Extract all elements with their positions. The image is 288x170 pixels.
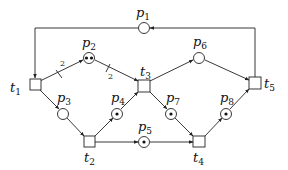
token	[224, 112, 227, 115]
transition-t5: t5	[249, 76, 275, 93]
arc-t3-p7	[150, 92, 167, 109]
transition-t3: t3	[138, 64, 151, 92]
svg-text:p5: p5	[138, 119, 152, 136]
arc-t2-p4	[95, 118, 113, 136]
arc-t5-p1	[150, 28, 255, 77]
token	[90, 56, 93, 59]
token	[115, 112, 118, 115]
svg-text:p1: p1	[136, 5, 150, 22]
svg-text:t4: t4	[193, 150, 204, 167]
place-p8: p8	[220, 90, 234, 120]
arc-p7-t4	[175, 118, 193, 136]
svg-text:p4: p4	[111, 90, 125, 107]
token	[142, 140, 145, 143]
arc-t3-p6	[150, 60, 193, 81]
svg-text:p7: p7	[166, 90, 180, 107]
transition-t1: t1	[10, 79, 41, 97]
place-p5: p5	[138, 119, 152, 148]
place-p1: p1	[136, 5, 150, 34]
svg-text:t5: t5	[264, 76, 275, 93]
svg-text:p6: p6	[193, 34, 207, 51]
token	[169, 112, 172, 115]
arc-p2-t3	[95, 60, 138, 81]
arc-weight-label: 2	[108, 72, 113, 81]
place-p3: p3	[57, 90, 71, 120]
arc-t4-p8	[205, 118, 222, 136]
svg-text:t1: t1	[10, 80, 21, 97]
svg-text:t3: t3	[140, 64, 151, 81]
petri-net-diagram: 2 2 p1 p2 p3 p4 p5 p6 p7 p8	[0, 0, 288, 170]
arc-p3-t2	[67, 118, 84, 136]
place-p6: p6	[193, 34, 207, 64]
place-p4: p4	[111, 90, 125, 120]
svg-text:p2: p2	[82, 35, 96, 52]
place-p2: p2	[82, 35, 96, 64]
weight-tick-t1-p2	[56, 70, 62, 78]
svg-text:t2: t2	[84, 150, 95, 167]
transition-t4: t4	[193, 136, 205, 167]
place-p7: p7	[166, 90, 181, 120]
svg-text:p3: p3	[57, 90, 71, 107]
token	[85, 56, 88, 59]
arc-weight-label: 2	[60, 59, 65, 68]
arc-p6-t5	[205, 60, 249, 80]
transition-t2: t2	[84, 136, 95, 167]
svg-text:p8: p8	[220, 90, 234, 107]
